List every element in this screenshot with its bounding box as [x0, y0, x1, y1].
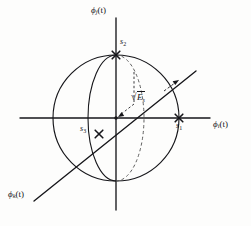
figure-canvas — [0, 0, 251, 226]
label-signal-point-s2: s2 — [120, 38, 126, 47]
label-signal-point-s1: s1 — [176, 122, 182, 131]
signal-subscript-s3: 3 — [83, 128, 86, 134]
signal-subscript-s2: 2 — [123, 41, 126, 47]
sqrt-glyph: √ — [131, 91, 137, 102]
energy-subscript: s — [143, 97, 145, 103]
axis-label-phi-j: ϕj(t) — [91, 6, 106, 16]
axis-argument-phi-j: (t) — [97, 5, 106, 15]
marker-s3 — [95, 130, 103, 138]
label-signal-point-s3: s3 — [80, 125, 86, 134]
signal-subscript-s1: 1 — [179, 125, 182, 131]
label-sqrt-es: √Es — [131, 92, 145, 103]
origin-point — [114, 116, 117, 119]
axis-argument-phi-i: (t) — [219, 119, 228, 129]
axis-argument-phi-k: (t) — [16, 189, 25, 199]
signal-space-figure: ϕi(t) ϕj(t) ϕk(t) s1 s2 s3 √Es — [0, 0, 251, 226]
axis-label-phi-k: ϕk(t) — [8, 190, 24, 200]
axis-label-phi-i: ϕi(t) — [213, 120, 228, 130]
